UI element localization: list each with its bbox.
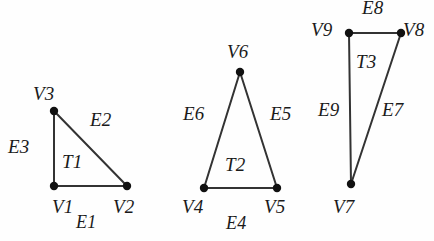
triangles-diagram: V3 E3 E2 T1 V1 E1 V2 V6 E6 E5 T2 V4 E4 V… xyxy=(0,0,434,241)
vertex-label-v6: V6 xyxy=(227,42,249,61)
vertex-label-v1: V1 xyxy=(52,197,74,216)
edge-label-e6: E6 xyxy=(183,104,205,123)
vertex-label-v8: V8 xyxy=(403,20,425,39)
edge-label-e8: E8 xyxy=(362,0,384,17)
edge-e9-line xyxy=(349,33,351,184)
vertex-label-v9: V9 xyxy=(311,20,333,39)
vertex-v2-dot xyxy=(123,182,131,190)
vertex-v7-dot xyxy=(347,180,355,188)
edge-label-e5: E5 xyxy=(270,104,292,123)
vertex-label-v7: V7 xyxy=(333,197,355,216)
edge-label-e4: E4 xyxy=(226,214,246,233)
edge-label-e3: E3 xyxy=(8,137,30,156)
vertex-v4-dot xyxy=(200,184,208,192)
edge-label-e2: E2 xyxy=(90,110,112,129)
edge-label-e7: E7 xyxy=(382,100,404,119)
vertex-label-v3: V3 xyxy=(33,84,55,103)
vertex-v1-dot xyxy=(50,182,58,190)
vertex-v9-dot xyxy=(345,29,353,37)
vertex-label-v5: V5 xyxy=(264,197,286,216)
face-label-t1: T1 xyxy=(62,152,82,171)
vertex-label-v2: V2 xyxy=(113,197,135,216)
edge-label-e1: E1 xyxy=(76,213,96,232)
vertex-v5-dot xyxy=(273,184,281,192)
face-label-t3: T3 xyxy=(356,52,376,71)
vertex-v3-dot xyxy=(50,107,58,115)
edge-e5-line xyxy=(240,72,277,188)
edge-label-e9: E9 xyxy=(318,100,340,119)
vertex-v6-dot xyxy=(236,68,244,76)
vertex-label-v4: V4 xyxy=(182,197,204,216)
face-label-t2: T2 xyxy=(225,155,245,174)
